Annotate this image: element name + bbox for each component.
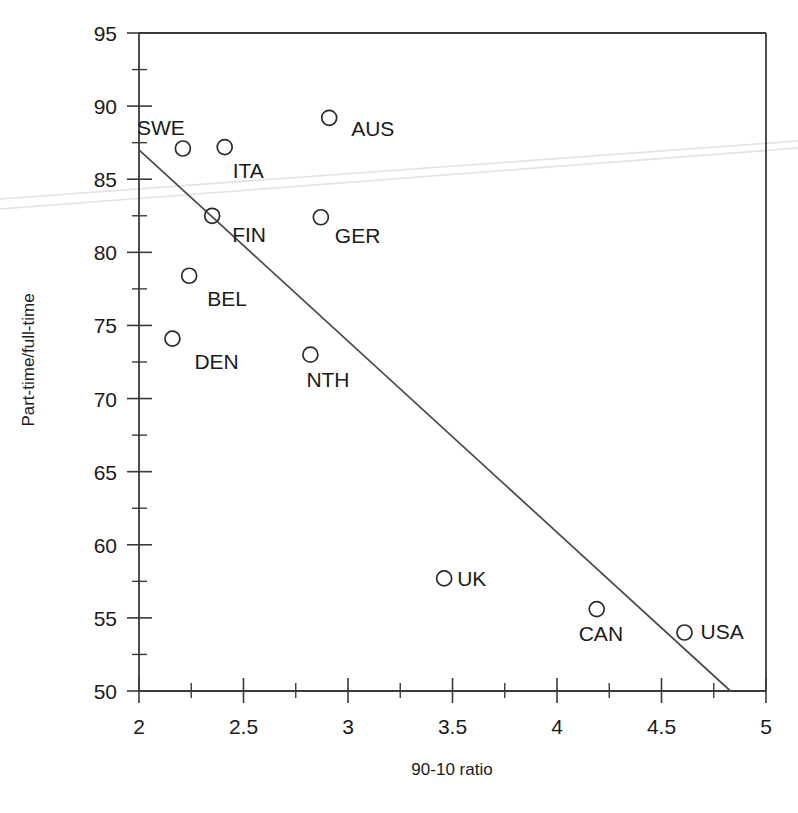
point-label-can: CAN bbox=[579, 622, 623, 645]
x-tick-label: 2 bbox=[133, 715, 145, 738]
point-label-usa: USA bbox=[700, 620, 743, 643]
y-tick-label: 70 bbox=[94, 388, 117, 411]
point-label-nth: NTH bbox=[306, 368, 349, 391]
chart-svg: 50556065707580859095 22.533.544.55 SWEIT… bbox=[0, 0, 798, 813]
x-tick-label: 4.5 bbox=[647, 715, 676, 738]
point-label-swe: SWE bbox=[137, 116, 185, 139]
point-label-aus: AUS bbox=[351, 117, 394, 140]
x-tick-label: 2.5 bbox=[229, 715, 258, 738]
y-axis-title: Part-time/full-time bbox=[19, 293, 38, 426]
point-label-bel: BEL bbox=[207, 287, 247, 310]
x-axis-tick-labels: 22.533.544.55 bbox=[133, 715, 772, 738]
y-tick-label: 50 bbox=[94, 680, 117, 703]
y-tick-label: 90 bbox=[94, 95, 117, 118]
y-tick-label: 55 bbox=[94, 607, 117, 630]
point-label-ita: ITA bbox=[233, 159, 264, 182]
x-tick-label: 3 bbox=[342, 715, 354, 738]
x-tick-label: 3.5 bbox=[438, 715, 467, 738]
point-label-den: DEN bbox=[194, 350, 238, 373]
y-tick-label: 80 bbox=[94, 241, 117, 264]
x-axis-title: 90-10 ratio bbox=[411, 760, 492, 779]
y-tick-label: 65 bbox=[94, 461, 117, 484]
point-label-uk: UK bbox=[457, 567, 486, 590]
y-tick-label: 75 bbox=[94, 314, 117, 337]
scatter-plot-figure: 50556065707580859095 22.533.544.55 SWEIT… bbox=[0, 0, 798, 813]
x-tick-label: 5 bbox=[760, 715, 772, 738]
point-label-fin: FIN bbox=[232, 223, 266, 246]
y-tick-label: 95 bbox=[94, 22, 117, 45]
y-tick-label: 85 bbox=[94, 168, 117, 191]
x-tick-label: 4 bbox=[551, 715, 563, 738]
point-label-ger: GER bbox=[335, 224, 381, 247]
y-tick-label: 60 bbox=[94, 534, 117, 557]
